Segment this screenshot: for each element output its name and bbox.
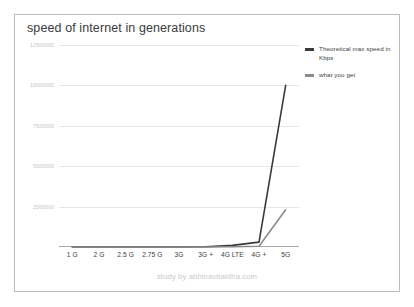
chart-title: speed of internet in generations [27, 21, 205, 35]
legend-item[interactable]: what you get [305, 71, 397, 80]
x-axis-tick-labels: 1 G2 G2.5 G2.75 G3G3G +4G LTE4G +5G [59, 251, 299, 265]
series-plot [59, 45, 299, 247]
footer-credit: study by abhinavbaldha.com [15, 272, 399, 281]
plot-area: 2500000500000075000001000000012500000 [59, 45, 299, 247]
legend-item[interactable]: Theoretical max speed in Kbps [305, 45, 397, 62]
chart-frame: speed of internet in generations 2500000… [14, 14, 400, 292]
x-axis-tick-label: 4G LTE [221, 251, 244, 258]
x-axis-tick-label: 4G + [252, 251, 267, 258]
x-axis-tick-label: 2.5 G [117, 251, 134, 258]
legend-label: what you get [319, 71, 355, 80]
x-axis-tick-label: 2 G [94, 251, 105, 258]
legend-marker-icon [305, 74, 314, 77]
x-axis-tick-label: 3G + [198, 251, 213, 258]
chart-legend: Theoretical max speed in Kbpswhat you ge… [305, 45, 397, 89]
y-axis-tick-label: 12500000 [30, 42, 54, 48]
legend-label: Theoretical max speed in Kbps [319, 45, 397, 62]
x-axis-tick-label: 2.75 G [142, 251, 162, 258]
series-line [72, 210, 285, 247]
y-axis-tick-label: 7500000 [33, 123, 54, 129]
legend-marker-icon [305, 48, 314, 51]
series-line [72, 85, 285, 247]
y-axis-tick-label: 5000000 [33, 163, 54, 169]
x-axis-tick-label: 3G [175, 251, 184, 258]
y-axis-tick-label: 2500000 [33, 204, 54, 210]
x-axis-tick-label: 1 G [67, 251, 78, 258]
y-axis-tick-label: 10000000 [30, 82, 54, 88]
x-axis-tick-label: 5G [281, 251, 290, 258]
